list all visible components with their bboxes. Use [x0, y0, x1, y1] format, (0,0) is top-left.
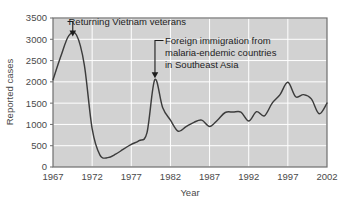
- x-tick-label-1972: 1972: [82, 171, 103, 182]
- y-tick-label-500: 500: [31, 140, 47, 151]
- vietnam-veterans-annotation-text: Returning Vietnam veterans: [69, 16, 187, 27]
- x-tick-label-1997: 1997: [277, 171, 298, 182]
- malaria-cases-line-chart: 0500100015002000250030003500 19671972197…: [0, 0, 341, 200]
- y-tick-label-2000: 2000: [26, 76, 47, 87]
- y-tick-label-2500: 2500: [26, 55, 47, 66]
- x-tick-label-2002: 2002: [316, 171, 337, 182]
- y-tick-label-3000: 3000: [26, 34, 47, 45]
- x-tick-label-1987: 1987: [199, 171, 220, 182]
- foreign-immigration-line-2: malaria-endemic countries: [165, 47, 277, 58]
- chart-figure: 0500100015002000250030003500 19671972197…: [0, 0, 341, 200]
- y-tick-label-1500: 1500: [26, 98, 47, 109]
- y-tick-label-1000: 1000: [26, 119, 47, 130]
- y-axis-tick-labels: 0500100015002000250030003500: [26, 12, 47, 172]
- y-axis-title: Reported cases: [4, 58, 15, 125]
- x-tick-label-1982: 1982: [160, 171, 181, 182]
- x-tick-label-1992: 1992: [238, 171, 259, 182]
- foreign-immigration-line-1: Foreign immigration from: [165, 35, 271, 46]
- x-tick-label-1967: 1967: [42, 171, 63, 182]
- y-tick-label-3500: 3500: [26, 12, 47, 23]
- x-axis-title: Year: [180, 187, 199, 198]
- x-axis-tick-labels: 19671972197719821987199219972002: [42, 171, 337, 182]
- x-tick-label-1977: 1977: [121, 171, 142, 182]
- foreign-immigration-line-3: in Southeast Asia: [165, 59, 239, 70]
